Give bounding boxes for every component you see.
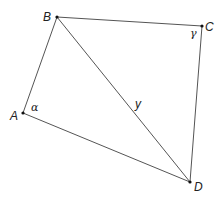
angle-alpha-label: α [31, 101, 39, 114]
edge-bc [57, 17, 202, 26]
point-d [188, 180, 191, 183]
edge-ab [23, 17, 57, 113]
angle-gamma-label: γ [190, 27, 197, 40]
point-b [55, 15, 58, 18]
label-c: C [205, 20, 214, 34]
diagonal-y-label: y [134, 97, 142, 111]
point-c [200, 24, 203, 27]
edge-da [23, 113, 190, 182]
label-a: A [9, 109, 18, 123]
point-a [21, 111, 24, 114]
quadrilateral-diagram: A B C D α γ y [0, 0, 223, 203]
label-d: D [194, 180, 203, 194]
edge-cd [190, 26, 202, 182]
label-b: B [43, 10, 51, 24]
diagonal-bd [57, 17, 190, 182]
